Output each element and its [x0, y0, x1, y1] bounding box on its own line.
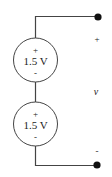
output-plus-label: + — [94, 34, 99, 44]
source-2-value: 1.5 V — [23, 119, 47, 131]
voltage-source-1: + 1.5 V - — [14, 38, 58, 82]
source-1-minus: - — [34, 68, 37, 78]
source-2-plus: + — [33, 109, 38, 119]
source-2-minus: - — [34, 132, 37, 142]
bottom-wire — [36, 146, 98, 166]
voltage-source-2: + 1.5 V - — [14, 102, 58, 146]
top-terminal — [94, 13, 101, 20]
top-wire — [36, 17, 99, 39]
output-minus-label: - — [96, 146, 99, 156]
source-1-plus: + — [33, 45, 38, 55]
circuit-diagram: + 1.5 V - + 1.5 V - + v - — [0, 0, 112, 177]
output-voltage-label: v — [94, 86, 99, 97]
bottom-terminal — [93, 161, 100, 168]
source-1-value: 1.5 V — [23, 55, 47, 67]
